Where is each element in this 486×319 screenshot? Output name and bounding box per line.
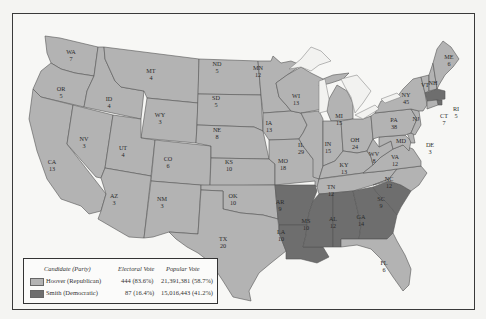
svg-text:DE3: DE3 [426, 141, 434, 155]
legend-header-candidate: Candidate (Party) [44, 265, 91, 272]
state-WY[interactable] [141, 98, 198, 143]
state-CT[interactable] [427, 100, 438, 109]
legend-row-hoover: Hoover (Republican) 444 (83.6%) 21,391,3… [30, 277, 214, 286]
svg-text:MD: MD [396, 137, 407, 144]
legend-popular: 21,391,381 (58.7%) [161, 277, 213, 284]
legend-header-electoral: Electoral Vote [118, 265, 154, 272]
state-FL[interactable] [341, 233, 411, 291]
hoover-swatch [30, 278, 44, 286]
svg-text:WI13: WI13 [292, 92, 300, 106]
legend-electoral: 87 (16.4%) [125, 289, 154, 296]
state-ND[interactable] [198, 59, 261, 95]
svg-text:NH: NH [429, 79, 438, 86]
legend-row-smith: Smith (Democratic) 87 (16.4%) 15,016,443… [30, 289, 214, 298]
map-frame: WA7 OR5 CA13 ID4 NV3 MT4 WY3 UT4 AZ3 CO6… [12, 13, 475, 310]
svg-text:AL12: AL12 [329, 215, 337, 229]
svg-text:IA13: IA13 [266, 119, 273, 133]
legend: Candidate (Party) Electoral Vote Popular… [23, 258, 218, 304]
smith-swatch [30, 290, 44, 298]
legend-header-popular: Popular Vote [166, 265, 200, 272]
svg-text:IN15: IN15 [325, 140, 332, 154]
svg-text:NJ: NJ [413, 115, 420, 122]
legend-electoral: 444 (83.6%) [121, 277, 154, 284]
lake-superior [289, 47, 331, 71]
svg-text:CT7: CT7 [440, 112, 448, 126]
legend-popular: 15,016,443 (41.2%) [161, 289, 213, 296]
legend-candidate: Smith (Democratic) [46, 289, 98, 296]
svg-text:IL29: IL29 [298, 141, 304, 155]
state-CO[interactable] [151, 140, 211, 186]
svg-text:MI15: MI15 [335, 112, 343, 126]
state-AZ[interactable] [98, 168, 151, 238]
legend-candidate: Hoover (Republican) [46, 277, 101, 284]
svg-text:PA38: PA38 [390, 116, 398, 130]
state-KS[interactable] [210, 158, 275, 186]
svg-text:NC12: NC12 [385, 175, 394, 189]
state-NM[interactable] [144, 181, 201, 238]
svg-text:RI5: RI5 [453, 105, 459, 119]
